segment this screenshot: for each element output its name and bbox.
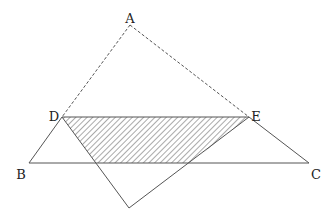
diagram-canvas: ABCDE xyxy=(0,0,334,221)
label-c: C xyxy=(311,167,321,182)
shaded-overlap-region xyxy=(62,117,249,163)
segment-a-d xyxy=(62,25,130,117)
label-d: D xyxy=(49,109,59,124)
label-b: B xyxy=(16,167,26,182)
triangle-fold-diagram: ABCDE xyxy=(0,0,334,221)
segment-c-e xyxy=(249,117,309,163)
label-e: E xyxy=(251,109,261,124)
segment-d-b xyxy=(29,117,62,163)
segment-a-e xyxy=(130,25,249,117)
dashed-original-edges xyxy=(62,25,249,117)
label-a: A xyxy=(124,11,135,26)
